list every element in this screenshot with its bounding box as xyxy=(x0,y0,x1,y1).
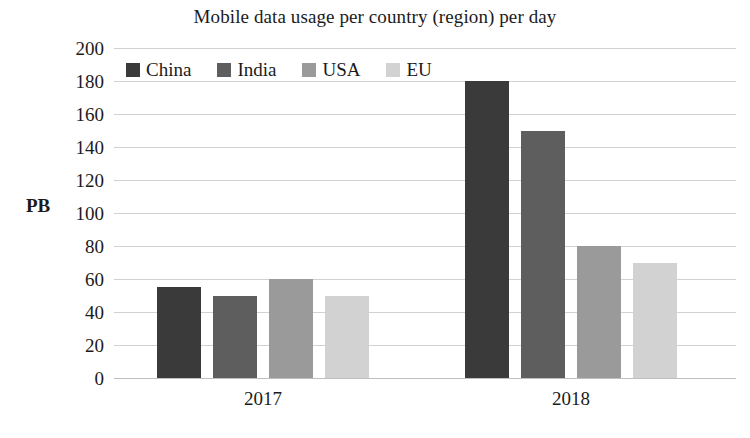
gridline xyxy=(114,213,736,214)
y-tick-label: 80 xyxy=(40,237,104,256)
bar-eu-2018[interactable] xyxy=(633,263,677,379)
gridline xyxy=(114,114,736,115)
legend-swatch-icon xyxy=(217,63,231,77)
y-tick-label: 200 xyxy=(40,39,104,58)
bar-eu-2017[interactable] xyxy=(325,296,369,379)
bar-usa-2018[interactable] xyxy=(577,246,621,378)
legend-item-china[interactable]: China xyxy=(126,60,191,80)
y-tick-label: 180 xyxy=(40,72,104,91)
bar-usa-2017[interactable] xyxy=(269,279,313,378)
x-tick-label-2017: 2017 xyxy=(157,388,369,410)
plot-area xyxy=(114,48,736,378)
chart-legend: ChinaIndiaUSAEU xyxy=(126,60,432,80)
legend-swatch-icon xyxy=(302,63,316,77)
gridline xyxy=(114,147,736,148)
legend-swatch-icon xyxy=(126,63,140,77)
legend-item-india[interactable]: India xyxy=(217,60,276,80)
bar-chart: Mobile data usage per country (region) p… xyxy=(0,0,750,438)
y-tick-label: 0 xyxy=(40,369,104,388)
gridline xyxy=(114,81,736,82)
bar-china-2017[interactable] xyxy=(157,287,201,378)
legend-label: EU xyxy=(406,60,431,80)
gridline xyxy=(114,246,736,247)
y-tick-label: 140 xyxy=(40,138,104,157)
y-tick-label: 160 xyxy=(40,105,104,124)
bar-india-2018[interactable] xyxy=(521,131,565,379)
y-tick-label: 20 xyxy=(40,336,104,355)
gridline xyxy=(114,180,736,181)
legend-label: China xyxy=(146,60,191,80)
legend-item-usa[interactable]: USA xyxy=(302,60,360,80)
legend-label: India xyxy=(237,60,276,80)
y-tick-label: 120 xyxy=(40,171,104,190)
x-tick-label-2018: 2018 xyxy=(465,388,677,410)
gridline xyxy=(114,378,736,379)
legend-item-eu[interactable]: EU xyxy=(386,60,431,80)
y-tick-label: 40 xyxy=(40,303,104,322)
bar-china-2018[interactable] xyxy=(465,81,509,378)
legend-label: USA xyxy=(322,60,360,80)
y-axis-label: PB xyxy=(26,195,50,217)
legend-swatch-icon xyxy=(386,63,400,77)
y-tick-label: 60 xyxy=(40,270,104,289)
bar-india-2017[interactable] xyxy=(213,296,257,379)
gridline xyxy=(114,48,736,49)
chart-title: Mobile data usage per country (region) p… xyxy=(0,6,750,28)
